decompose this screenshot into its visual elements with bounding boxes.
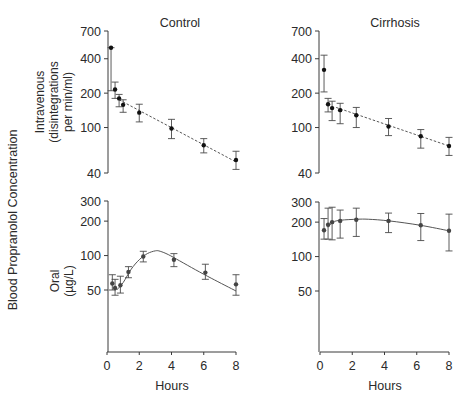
data-point <box>326 102 330 106</box>
error-bar <box>321 55 328 92</box>
error-bar <box>108 48 115 91</box>
row-label-iv: Intravenous (disintegrations per min/ml) <box>33 61 75 142</box>
data-point <box>447 144 451 148</box>
data-point <box>234 282 238 286</box>
x-tick-label: 0 <box>104 359 111 373</box>
chart-canvas: Blood Propranolol Concentration Intraven… <box>0 0 467 406</box>
fit-curve <box>117 251 236 291</box>
row-label-oral: Oral (µg/L) <box>48 265 76 297</box>
y-tick-label: 300 <box>291 196 312 210</box>
data-point <box>419 223 423 227</box>
data-point <box>354 218 358 222</box>
row-label-oral-line-1: Oral <box>48 270 62 293</box>
column-title-cirrhosis: Cirrhosis <box>370 16 419 30</box>
x-tick-label: 2 <box>349 359 356 373</box>
data-point <box>113 286 117 290</box>
data-point <box>386 219 390 223</box>
fit-curve <box>119 100 236 162</box>
panel-oral-control: 5010020030002468 <box>80 195 239 374</box>
y-tick-label: 50 <box>298 285 312 299</box>
data-point <box>126 270 130 274</box>
data-point <box>172 258 176 262</box>
error-bar <box>337 103 344 123</box>
column-title-control: Control <box>160 16 200 30</box>
x-tick-label: 8 <box>446 359 453 373</box>
data-point <box>234 158 238 162</box>
data-point <box>386 124 390 128</box>
y-tick-label: 300 <box>80 195 101 209</box>
error-bar <box>337 210 344 238</box>
x-tick-label: 6 <box>413 359 420 373</box>
data-point <box>330 220 334 224</box>
y-tick-label: 100 <box>291 121 312 135</box>
data-point <box>419 134 423 138</box>
row-label-iv-line-1: Intravenous <box>33 71 47 134</box>
panel-iv-cirrhosis: 40100200400700 <box>291 25 452 181</box>
x-tick-label: 4 <box>381 359 388 373</box>
y-tick-label: 50 <box>87 284 101 298</box>
panel-iv-control: 40100200400700 <box>80 25 239 181</box>
data-point <box>330 106 334 110</box>
y-tick-label: 40 <box>298 167 312 181</box>
y-tick-label: 200 <box>291 216 312 230</box>
data-point <box>137 110 141 114</box>
data-point <box>169 126 173 130</box>
x-axis-label-control: Hours <box>155 379 188 393</box>
data-point <box>110 281 114 285</box>
x-tick-label: 4 <box>168 359 175 373</box>
data-point <box>326 222 330 226</box>
data-point <box>113 87 117 91</box>
data-point <box>109 45 113 49</box>
y-tick-label: 100 <box>80 249 101 263</box>
panel-oral-cirrhosis: 5010020030002468 <box>291 196 452 374</box>
y-tick-label: 700 <box>80 25 101 39</box>
data-point <box>141 254 145 258</box>
data-point <box>118 283 122 287</box>
y-tick-label: 200 <box>80 215 101 229</box>
x-tick-label: 6 <box>200 359 207 373</box>
y-tick-label: 400 <box>291 52 312 66</box>
y-tick-label: 200 <box>291 87 312 101</box>
data-point <box>202 143 206 147</box>
data-point <box>121 103 125 107</box>
data-point <box>338 219 342 223</box>
y-tick-label: 40 <box>87 167 101 181</box>
x-tick-label: 2 <box>136 359 143 373</box>
row-label-oral-line-2: (µg/L) <box>62 265 76 297</box>
x-tick-label: 0 <box>317 359 324 373</box>
error-bar <box>353 208 360 236</box>
x-axis-label-cirrhosis: Hours <box>368 379 401 393</box>
figure: Blood Propranolol Concentration Intraven… <box>0 0 467 406</box>
data-point <box>322 68 326 72</box>
y-tick-label: 400 <box>80 52 101 66</box>
row-label-iv-line-2: (disintegrations <box>47 61 61 142</box>
row-label-iv-line-3: per min/ml) <box>61 72 75 132</box>
y-tick-label: 100 <box>80 121 101 135</box>
data-point <box>338 108 342 112</box>
data-point <box>354 113 358 117</box>
y-tick-label: 100 <box>291 250 312 264</box>
x-tick-label: 8 <box>233 359 240 373</box>
y-tick-label: 700 <box>291 25 312 39</box>
main-y-label: Blood Propranolol Concentration <box>6 130 20 311</box>
fit-curve <box>336 107 449 146</box>
data-point <box>322 228 326 232</box>
data-point <box>447 229 451 233</box>
error-bar <box>417 130 424 149</box>
data-point <box>203 270 207 274</box>
y-tick-label: 200 <box>80 87 101 101</box>
